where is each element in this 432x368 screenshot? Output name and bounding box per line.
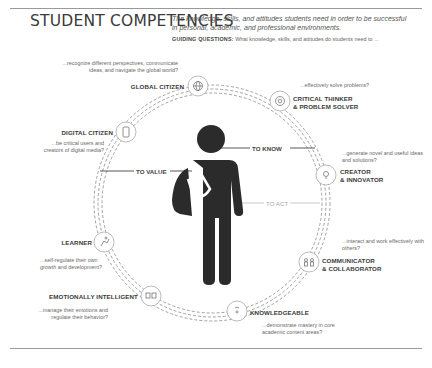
question-learner: ...self-regulate their own growth and de…	[40, 257, 110, 271]
label-creator: CREATOR& INNOVATOR	[340, 168, 424, 183]
device-icon	[116, 122, 136, 142]
label-critical-thinker: CRITICAL THINKER& PROBLEM SOLVER	[293, 95, 403, 110]
label-digital-citizen: DIGITAL CITIZEN	[30, 129, 113, 137]
label-emotionally-intelligent: EMOTIONALLY INTELLIGENT	[30, 293, 138, 301]
question-critical-thinker: ...effectively solve problems?	[300, 82, 410, 89]
label-communicator: COMMUNICATOR& COLLABORATOR	[322, 257, 422, 272]
question-global-citizen: ...recognize different perspectives, com…	[60, 60, 178, 74]
question-communicator: ...interact and work effectively with ot…	[342, 238, 426, 252]
at-sign-icon	[270, 91, 290, 111]
question-digital-citizen: ...be critical users and creators of dig…	[36, 140, 104, 154]
question-creator: ...generate novel and useful ideas and s…	[342, 150, 426, 164]
masks-icon	[141, 286, 161, 306]
people-icon	[299, 252, 319, 272]
question-knowledgeable: ...demonstrate mastery in core academic …	[262, 322, 342, 336]
lightbulb-head-icon	[316, 165, 336, 185]
to-act-label: TO ACT	[266, 200, 288, 207]
label-global-citizen: GLOBAL CITIZEN	[100, 83, 184, 91]
to-value-label: TO VALUE	[136, 168, 167, 175]
label-learner: LEARNER	[40, 239, 92, 247]
climber-icon	[94, 232, 114, 252]
student-figure	[172, 125, 243, 285]
question-emotionally-intelligent: ...manage their emotions and regulate th…	[30, 307, 108, 321]
to-know-label: TO KNOW	[252, 145, 282, 152]
label-knowledgeable: KNOWLEDGEABLE	[250, 309, 350, 317]
